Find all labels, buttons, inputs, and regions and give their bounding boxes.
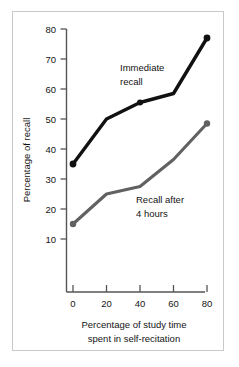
- chart-figure: 80 70 60 50 40 30 20 10 0 20 40 60 80 Pe…: [0, 0, 239, 367]
- annotation-immediate-recall-line2: recall: [120, 76, 143, 87]
- annotation-immediate-recall: Immediate recall: [120, 62, 164, 87]
- series-immediate-recall-point-2: [137, 100, 143, 106]
- series-immediate-recall: [70, 35, 211, 168]
- y-axis-tick-labels: 80 70 60 50 40 30 20 10: [45, 24, 56, 245]
- x-tick-label-60: 60: [168, 298, 179, 309]
- annotation-recall-after-4-hours: Recall after 4 hours: [136, 194, 184, 219]
- y-tick-label-50: 50: [45, 114, 56, 125]
- y-tick-label-20: 20: [45, 204, 56, 215]
- y-tick-label-10: 10: [45, 234, 56, 245]
- series-recall-after-4-hours-point-0: [70, 221, 76, 227]
- y-tick-label-70: 70: [45, 54, 56, 65]
- series-recall-after-4-hours-point-4: [204, 120, 210, 126]
- y-tick-label-30: 30: [45, 174, 56, 185]
- x-axis-tick-labels: 0 20 40 60 80: [70, 298, 212, 309]
- x-axis-ticks: [73, 285, 207, 292]
- x-tick-label-80: 80: [202, 298, 213, 309]
- annotation-recall-after-4-hours-line1: Recall after: [136, 194, 184, 205]
- x-tick-label-40: 40: [135, 298, 146, 309]
- x-axis-title-line1: Percentage of study time: [81, 319, 186, 330]
- series-immediate-recall-point-4: [204, 35, 211, 42]
- annotation-recall-after-4-hours-line2: 4 hours: [136, 208, 168, 219]
- series-immediate-recall-point-0: [70, 161, 77, 168]
- y-tick-label-40: 40: [45, 144, 56, 155]
- x-tick-label-0: 0: [70, 298, 75, 309]
- y-axis-title: Percentage of recall: [21, 118, 32, 203]
- x-tick-label-20: 20: [101, 298, 112, 309]
- x-axis-title-line2: spent in self-recitation: [88, 333, 180, 344]
- annotation-immediate-recall-line1: Immediate: [120, 62, 164, 73]
- y-axis-ticks: [61, 29, 67, 239]
- y-tick-label-60: 60: [45, 84, 56, 95]
- y-tick-label-80: 80: [45, 24, 56, 35]
- line-chart: 80 70 60 50 40 30 20 10 0 20 40 60 80 Pe…: [0, 0, 239, 367]
